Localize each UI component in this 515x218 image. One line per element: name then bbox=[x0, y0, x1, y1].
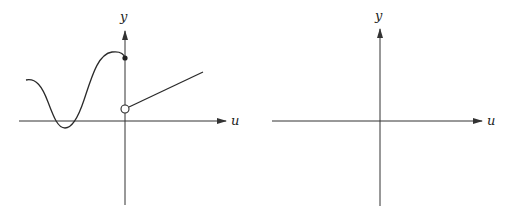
open-point bbox=[121, 105, 129, 113]
left-graph: u y bbox=[19, 9, 239, 205]
right-y-axis-label: y bbox=[374, 8, 383, 23]
filled-point bbox=[122, 55, 127, 60]
right-graph: u y bbox=[272, 8, 495, 206]
left-x-axis-label: u bbox=[231, 113, 239, 128]
wave-curve bbox=[26, 52, 125, 128]
diagram-canvas: u y u y bbox=[0, 0, 515, 218]
linear-segment bbox=[129, 72, 203, 107]
left-y-axis-label: y bbox=[119, 9, 128, 24]
right-x-axis-label: u bbox=[487, 113, 495, 128]
